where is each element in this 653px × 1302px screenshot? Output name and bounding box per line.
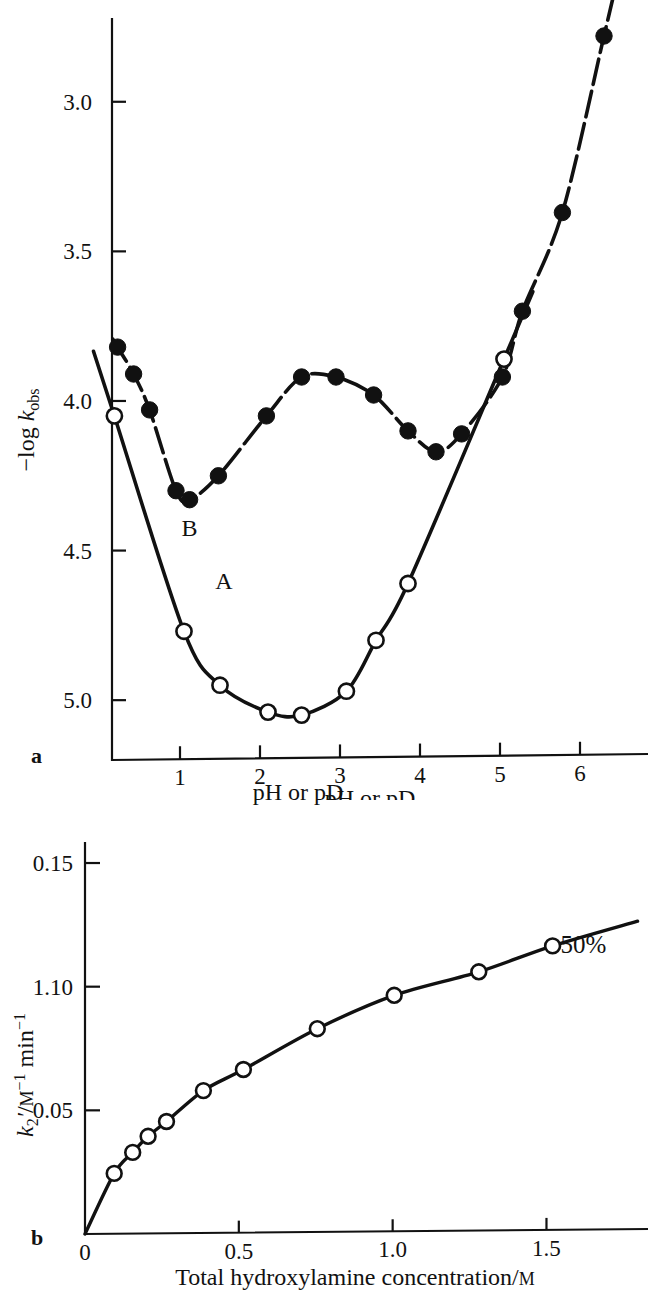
panel-b-curves: [85, 921, 638, 1234]
panel-b-y-axis-title: k2′/M−1 min−1: [11, 1013, 41, 1137]
panel-a-point-b: [176, 624, 191, 639]
panel-b-x-tick-label: 0: [79, 1240, 91, 1265]
panel-b-chart: 0.051.100.1500.51.01.5 50% k2′/M−1 min−1…: [0, 820, 653, 1302]
panel-a-point-b: [496, 352, 511, 367]
panel-a-point-b: [294, 708, 309, 723]
panel-a-point-a: [453, 426, 469, 442]
panel-a-point-a: [181, 492, 197, 508]
panel-a-point-b: [212, 678, 227, 693]
panel-a-tick-marks: [112, 102, 580, 759]
panel-a-curve-b: [94, 292, 533, 717]
panel-b-x-axis-title: Total hydroxylamine concentration/M: [175, 1264, 535, 1290]
panel-a-curve-label-a: A: [215, 568, 233, 594]
panel-b-axes: [85, 842, 648, 1234]
panel-b-point: [387, 988, 402, 1003]
panel-a-curve-label-b: B: [182, 515, 198, 541]
panel-a-point-b: [368, 633, 383, 648]
panel-a-point-b: [400, 576, 415, 591]
panel-a-point-a: [514, 303, 530, 319]
panel-b-y-tick-label: 0.15: [33, 851, 73, 876]
panel-b-x-tick-label: 0.5: [224, 1239, 253, 1264]
panel-b-point: [159, 1114, 174, 1129]
panel-a-curves: [94, 0, 617, 717]
panel-a-y-tick-label: 3.5: [63, 239, 92, 264]
panel-a-chart: 3.03.54.04.55.0123456 AB −log kobs pH or…: [0, 0, 653, 800]
panel-a-point-a: [125, 366, 141, 382]
panel-b-tick-marks: [85, 863, 546, 1233]
panel-a-point-a: [328, 369, 344, 385]
panel-a-tick-labels: 3.03.54.04.55.0123456: [63, 90, 586, 790]
panel-b-point: [141, 1129, 156, 1144]
panel-b-point: [545, 939, 560, 954]
panel-b-point: [236, 1062, 251, 1077]
panel-b-point: [196, 1083, 211, 1098]
panel-a-point-a: [596, 28, 612, 44]
panel-a-point-a: [293, 369, 309, 385]
panel-b-annotations: 50%: [560, 931, 606, 958]
panel-b-x-tick-label: 1.5: [532, 1236, 561, 1261]
panel-a-point-a: [258, 408, 274, 424]
panel-b-annotation-50-percent: 50%: [560, 931, 606, 958]
panel-a-y-axis-title: −log kobs: [13, 388, 42, 471]
panel-a-y-tick-label: 5.0: [63, 688, 92, 713]
figure-container: 3.03.54.04.55.0123456 AB −log kobs pH or…: [0, 0, 653, 1302]
panel-b-point: [471, 964, 486, 979]
panel-a-curve-a: [113, 0, 617, 502]
panel-a-y-tick-label: 4.5: [63, 539, 92, 564]
panel-a-y-tick-label: 4.0: [63, 389, 92, 414]
panel-b-x-tick-label: 1.0: [378, 1237, 407, 1262]
panel-a-point-a: [141, 402, 157, 418]
panel-a-point-a: [494, 369, 510, 385]
panel-a-y-tick-label: 3.0: [63, 90, 92, 115]
panel-a-curve-labels: AB: [182, 515, 234, 595]
panel-a-letter: a: [31, 743, 42, 768]
panel-a-point-b: [339, 684, 354, 699]
panel-a-point-a: [109, 339, 125, 355]
panel-b-y-tick-label: 1.10: [33, 975, 73, 1000]
panel-a-data-points: [107, 28, 612, 723]
panel-b-data-points: [107, 939, 560, 1181]
panel-a-point-a: [210, 468, 226, 484]
panel-b-point: [125, 1145, 140, 1160]
panel-a-point-a: [400, 423, 416, 439]
panel-a-point-a: [428, 444, 444, 460]
panel-a-point-b: [260, 705, 275, 720]
panel-a-point-a: [554, 204, 570, 220]
panel-a-x-axis-title-text: pH or pD: [253, 779, 344, 805]
panel-a-point-a: [365, 387, 381, 403]
panel-b-letter: b: [31, 1225, 43, 1250]
panel-b-point: [310, 1021, 325, 1036]
panel-a-point-b: [107, 408, 122, 423]
panel-b-curve: [85, 921, 638, 1234]
panel-b-tick-labels: 0.051.100.1500.51.01.5: [33, 851, 561, 1265]
panel-b-point: [107, 1166, 122, 1181]
